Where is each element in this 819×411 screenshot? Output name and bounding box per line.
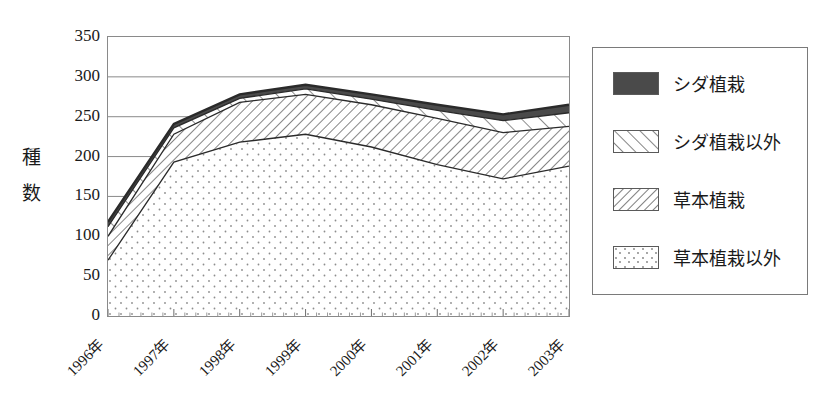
legend-swatch-solid-dark (613, 72, 659, 95)
legend-item-2[interactable]: 草本植栽 (613, 184, 803, 214)
chart-legend: シダ植栽 (592, 47, 808, 295)
x-tick-label-1997年: 1997年 (127, 333, 174, 380)
legend-item-3[interactable]: 草本植栽以外 (613, 242, 803, 272)
x-tick-label-1996年: 1996年 (61, 333, 108, 380)
legend-item-1[interactable]: シダ植栽以外 (613, 126, 803, 156)
x-tick-label-1998年: 1998年 (193, 333, 240, 380)
x-tick-label-2001年: 2001年 (390, 333, 437, 380)
legend-label-1: シダ植栽以外 (673, 128, 781, 154)
x-tick-label-2000年: 2000年 (324, 333, 371, 380)
x-tick-label-2002年: 2002年 (456, 333, 503, 380)
legend-swatch-dotted (613, 246, 659, 269)
legend-swatch-diagonal-dense (613, 188, 659, 211)
legend-item-0[interactable]: シダ植栽 (613, 68, 803, 98)
x-tick-label-1999年: 1999年 (259, 333, 306, 380)
legend-label-2: 草本植栽 (673, 186, 745, 212)
legend-label-3: 草本植栽以外 (673, 244, 781, 270)
x-tick-label-2003年: 2003年 (522, 333, 569, 380)
stacked-area-chart-figure: 種 数 050100150200250300350 (0, 0, 819, 411)
legend-swatch-diagonal-sparse (613, 130, 659, 153)
legend-label-0: シダ植栽 (673, 70, 745, 96)
